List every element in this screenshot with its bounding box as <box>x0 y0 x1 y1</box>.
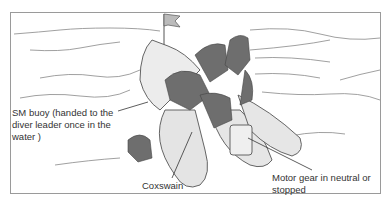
label-coxswain: Coxswain <box>142 180 183 192</box>
label-line: SM buoy (handed to the <box>12 107 113 119</box>
label-line: water ) <box>12 131 113 143</box>
label-line: diver leader once in the <box>12 119 113 131</box>
label-sm-buoy: SM buoy (handed to the diver leader once… <box>12 107 113 143</box>
flag-icon <box>164 14 180 48</box>
label-line: stopped <box>272 184 371 196</box>
label-motor-gear: Motor gear in neutral or stopped <box>272 172 371 196</box>
label-line: Motor gear in neutral or <box>272 172 371 184</box>
label-line: Coxswain <box>142 180 183 192</box>
